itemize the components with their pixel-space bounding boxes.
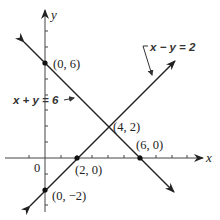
line-x-minus-y-eq-2 (30, 61, 175, 206)
point-label-6-0: (6, 0) (136, 138, 163, 152)
point-label-2-0: (2, 0) (75, 163, 102, 177)
leader-arrow-line1 (64, 98, 74, 100)
x-axis-label: x (205, 150, 212, 165)
coordinate-graph: x y 0 (0, 6) (4, 2) (6, 0) (2, 0) (0, −2… (0, 0, 220, 220)
point-label-4-2: (4, 2) (113, 120, 140, 134)
origin-label: 0 (34, 161, 40, 175)
point-label-0-neg2: (0, −2) (52, 189, 86, 203)
equation-label-line2: x − y = 2 (149, 41, 196, 53)
equation-label-line1: x + y = 6 (12, 94, 59, 106)
point-2-0 (74, 155, 79, 160)
point-0-6 (42, 60, 47, 65)
point-0-neg2 (42, 187, 47, 192)
point-label-0-6: (0, 6) (53, 57, 80, 71)
y-axis-label: y (49, 7, 57, 22)
point-6-0 (137, 155, 142, 160)
